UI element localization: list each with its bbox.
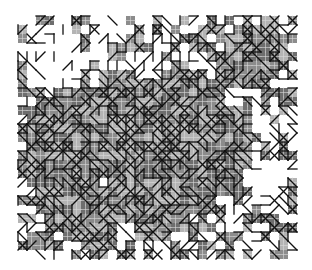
mesh-texture-figure <box>0 0 312 270</box>
